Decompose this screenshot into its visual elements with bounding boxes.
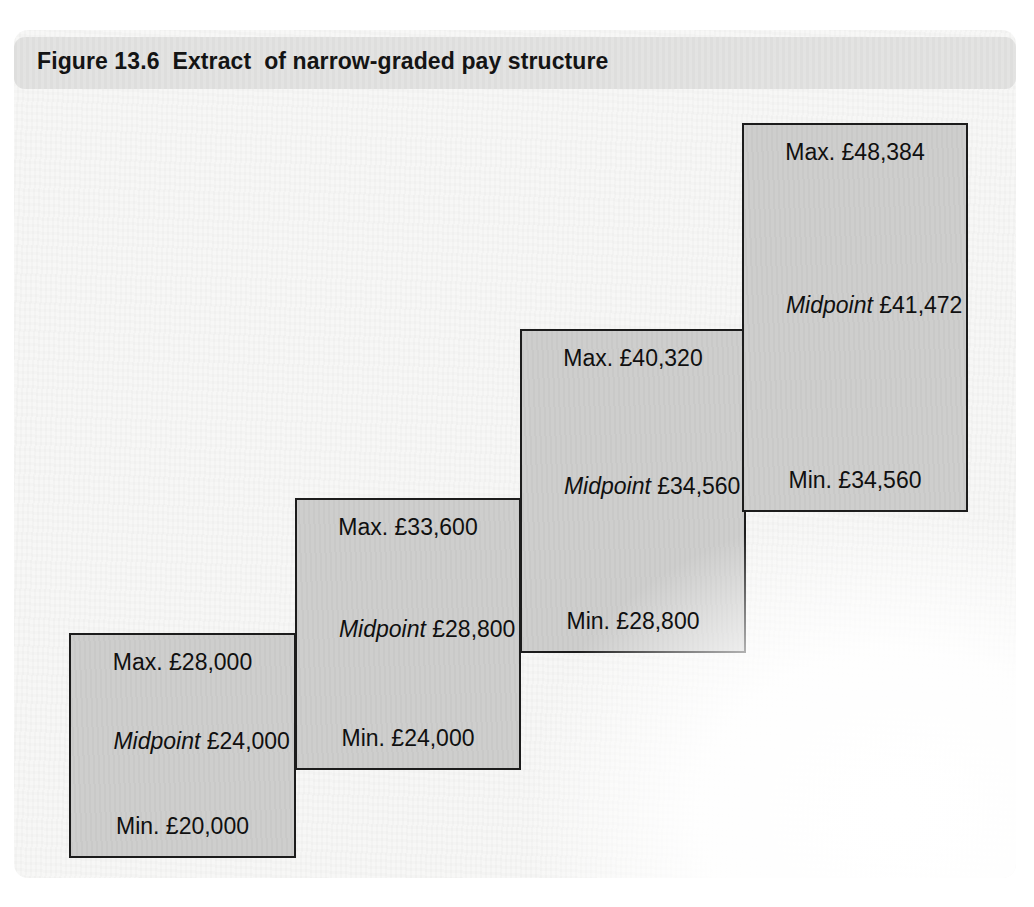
- grade-3-midpoint-label: Midpoint £34,560: [522, 446, 744, 527]
- grade-2-min-label: Min. £24,000: [297, 725, 519, 752]
- figure-caption-title: Figure 13.6 Extract of narrow-graded pay…: [37, 48, 608, 75]
- pay-grade-band-1: Max. £28,000 Midpoint £24,000 Min. £20,0…: [69, 633, 296, 858]
- grade-2-midpoint-value: £28,800: [426, 616, 516, 642]
- grade-1-max-label: Max. £28,000: [71, 649, 294, 676]
- grade-4-min-label: Min. £34,560: [744, 467, 966, 494]
- grade-4-max-label: Max. £48,384: [744, 139, 966, 166]
- grade-3-max-label: Max. £40,320: [522, 345, 744, 372]
- grade-1-midpoint-label: Midpoint £24,000: [71, 701, 294, 782]
- grade-4-midpoint-value: £41,472: [873, 292, 963, 318]
- grade-3-min-label: Min. £28,800: [522, 608, 744, 635]
- pay-grade-band-3: Max. £40,320 Midpoint £34,560 Min. £28,8…: [520, 329, 746, 653]
- grade-3-midpoint-word: Midpoint: [564, 473, 651, 499]
- grade-1-midpoint-word: Midpoint: [113, 728, 200, 754]
- figure-page: Figure 13.6 Extract of narrow-graded pay…: [0, 0, 1034, 907]
- grade-1-midpoint-value: £24,000: [200, 728, 290, 754]
- grade-4-midpoint-word: Midpoint: [786, 292, 873, 318]
- grade-3-midpoint-value: £34,560: [651, 473, 741, 499]
- pay-grade-band-2: Max. £33,600 Midpoint £28,800 Min. £24,0…: [295, 498, 521, 770]
- pay-grade-band-4: Max. £48,384 Midpoint £41,472 Min. £34,5…: [742, 123, 968, 512]
- grade-2-midpoint-label: Midpoint £28,800: [297, 589, 519, 670]
- grade-4-midpoint-label: Midpoint £41,472: [744, 265, 966, 346]
- grade-1-min-label: Min. £20,000: [71, 813, 294, 840]
- grade-2-max-label: Max. £33,600: [297, 514, 519, 541]
- grade-2-midpoint-word: Midpoint: [339, 616, 426, 642]
